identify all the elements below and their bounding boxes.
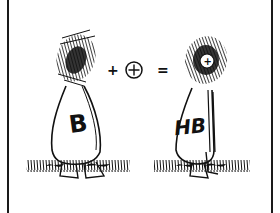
right-head-scribble: + [180,31,233,88]
equation: + = [107,62,169,78]
equals-sign: = [157,62,169,78]
right-grass [154,160,250,172]
comic-panel: B + = + HB [0,0,280,213]
left-body-label: B [67,109,89,139]
cartoon-illustration: B + = + HB [0,0,280,213]
right-body-label: HB [173,113,207,140]
head-plus-sign: + [204,56,212,67]
left-figure: B [26,29,130,178]
right-figure: + HB [154,31,250,178]
left-grass [26,160,130,172]
left-head-scribble [50,29,102,87]
plus-sign: + [107,62,119,78]
